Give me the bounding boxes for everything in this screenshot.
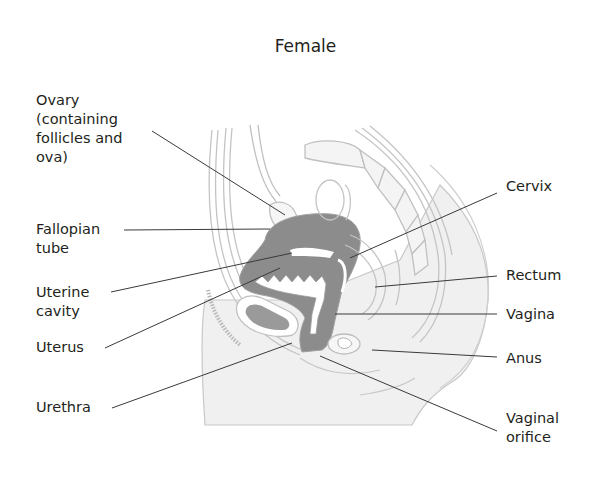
label-uterine-cavity: Uterine cavity xyxy=(36,283,89,321)
label-vagina: Vagina xyxy=(506,305,555,324)
label-vaginal-orifice: Vaginal orifice xyxy=(506,409,559,447)
label-cervix: Cervix xyxy=(506,177,552,196)
label-anus: Anus xyxy=(506,349,542,368)
label-urethra: Urethra xyxy=(36,398,91,417)
leader-fallopian-tube xyxy=(124,229,270,230)
label-ovary: Ovary (containing follicles and ova) xyxy=(36,91,122,167)
anus xyxy=(328,334,360,354)
leader-ovary xyxy=(152,131,285,215)
label-fallopian-tube: Fallopian tube xyxy=(36,220,100,258)
label-rectum: Rectum xyxy=(506,266,561,285)
label-uterus: Uterus xyxy=(36,338,84,357)
